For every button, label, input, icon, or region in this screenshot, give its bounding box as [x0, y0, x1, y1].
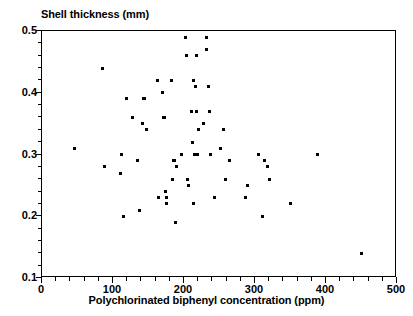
x-tick-minor [84, 277, 85, 281]
x-tick-minor [368, 277, 369, 281]
data-point [208, 110, 211, 113]
y-tick-minor [38, 228, 42, 229]
data-point [195, 54, 198, 57]
scatter-plot-figure: Shell thickness (mm) 0.10.20.30.40.50100… [0, 0, 413, 316]
y-tick-minor [38, 42, 42, 43]
data-point [125, 97, 128, 100]
data-point [145, 128, 148, 131]
data-point [224, 178, 227, 181]
y-tick-minor [38, 178, 42, 179]
data-point [194, 85, 197, 88]
data-point [157, 196, 160, 199]
data-point [184, 36, 187, 39]
data-points-layer [42, 31, 395, 276]
y-tick-minor [38, 55, 42, 56]
data-point [175, 165, 178, 168]
data-point [173, 159, 176, 162]
data-point [119, 172, 122, 175]
data-point [202, 122, 205, 125]
data-point [161, 91, 164, 94]
y-tick-minor [38, 166, 42, 167]
data-point [257, 153, 260, 156]
data-point [266, 165, 269, 168]
y-tick-minor [38, 67, 42, 68]
x-tick-minor [268, 277, 269, 281]
data-point [195, 110, 198, 113]
y-tick-minor [38, 240, 42, 241]
data-point [222, 128, 225, 131]
x-tick-minor [169, 277, 170, 281]
data-point [122, 215, 125, 218]
data-point [246, 184, 249, 187]
x-tick-minor [69, 277, 70, 281]
data-point [228, 159, 231, 162]
x-tick-minor [240, 277, 241, 281]
data-point [268, 178, 271, 181]
data-point [213, 196, 216, 199]
x-tick-minor [197, 277, 198, 281]
data-point [185, 54, 188, 57]
y-tick-minor [38, 104, 42, 105]
data-point [316, 153, 319, 156]
x-tick-minor [98, 277, 99, 281]
y-tick-minor [38, 265, 42, 266]
y-tick-minor [38, 141, 42, 142]
data-point [192, 202, 195, 205]
data-point [164, 190, 167, 193]
x-tick-minor [155, 277, 156, 281]
x-tick-minor [382, 277, 383, 281]
x-tick-minor [211, 277, 212, 281]
data-point [289, 202, 292, 205]
x-tick-minor [126, 277, 127, 281]
x-tick-minor [353, 277, 354, 281]
data-point [120, 153, 123, 156]
data-point [186, 178, 189, 181]
data-point [170, 79, 173, 82]
data-point [196, 153, 199, 156]
x-tick-minor [55, 277, 56, 281]
data-point [191, 141, 194, 144]
data-point [136, 159, 139, 162]
data-point [244, 196, 247, 199]
y-axis-title: Shell thickness (mm) [41, 8, 149, 20]
data-point [165, 202, 168, 205]
plot-area [41, 30, 396, 277]
x-tick-minor [140, 277, 141, 281]
data-point [143, 97, 146, 100]
data-point [138, 209, 141, 212]
y-tick-minor [38, 252, 42, 253]
y-tick-minor [38, 191, 42, 192]
data-point [165, 196, 168, 199]
data-point [261, 215, 264, 218]
y-tick-label: 0.5 [22, 24, 37, 36]
data-point [73, 147, 76, 150]
data-point [174, 221, 177, 224]
x-tick-minor [297, 277, 298, 281]
x-tick-minor [339, 277, 340, 281]
x-axis-title: Polychlorinated biphenyl concentration (… [0, 294, 413, 306]
data-point [156, 79, 159, 82]
data-point [205, 36, 208, 39]
data-point [101, 67, 104, 70]
x-tick-minor [226, 277, 227, 281]
data-point [141, 122, 144, 125]
y-tick-minor [38, 116, 42, 117]
data-point [163, 116, 166, 119]
data-point [205, 48, 208, 51]
y-tick-label: 0.4 [22, 86, 37, 98]
data-point [171, 178, 174, 181]
y-tick-label: 0.1 [22, 271, 37, 283]
data-point [180, 153, 183, 156]
y-tick-label: 0.2 [22, 209, 37, 221]
data-point [360, 252, 363, 255]
data-point [263, 159, 266, 162]
x-tick-minor [282, 277, 283, 281]
y-tick-minor [38, 129, 42, 130]
data-point [190, 110, 193, 113]
y-tick-label: 0.3 [22, 148, 37, 160]
y-tick-minor [38, 79, 42, 80]
data-point [131, 116, 134, 119]
data-point [103, 165, 106, 168]
data-point [197, 128, 200, 131]
data-point [207, 85, 210, 88]
